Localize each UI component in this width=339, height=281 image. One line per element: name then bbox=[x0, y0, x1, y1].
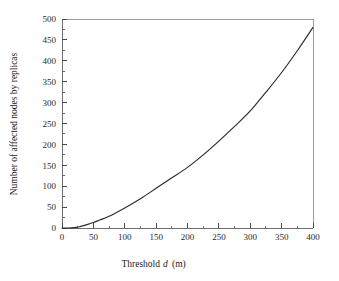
axis-ticks bbox=[62, 19, 313, 228]
x-axis-title: Threshold d (m) bbox=[121, 259, 185, 270]
x-tick-label-100: 100 bbox=[118, 232, 132, 242]
y-tick-label-350: 350 bbox=[43, 77, 57, 87]
chart-canvas: 0501001502002503003504000501001502002503… bbox=[0, 0, 339, 281]
y-tick-label-200: 200 bbox=[43, 140, 57, 150]
y-tick-label-500: 500 bbox=[43, 14, 57, 24]
x-tick-label-50: 50 bbox=[89, 232, 99, 242]
x-tick-label-200: 200 bbox=[181, 232, 195, 242]
x-axis-title-units: (m) bbox=[172, 259, 186, 270]
y-tick-label-50: 50 bbox=[47, 202, 57, 212]
x-tick-label-150: 150 bbox=[149, 232, 163, 242]
x-tick-label-400: 400 bbox=[306, 232, 320, 242]
x-axis-title-variable: d bbox=[163, 259, 168, 269]
y-tick-label-150: 150 bbox=[43, 161, 57, 171]
plot-frame bbox=[62, 19, 313, 228]
x-tick-label-0: 0 bbox=[60, 232, 65, 242]
y-tick-label-0: 0 bbox=[52, 223, 57, 233]
x-tick-label-250: 250 bbox=[212, 232, 226, 242]
data-curve-affected-nodes bbox=[62, 27, 313, 228]
chart-figure: 0501001502002503003504000501001502002503… bbox=[0, 0, 339, 281]
x-axis-title-prefix: Threshold bbox=[121, 259, 160, 269]
series-layer bbox=[62, 27, 313, 228]
y-tick-label-250: 250 bbox=[43, 119, 57, 129]
axis-tick-labels: 0501001502002503003504000501001502002503… bbox=[43, 14, 321, 242]
x-tick-label-300: 300 bbox=[244, 232, 258, 242]
y-tick-label-300: 300 bbox=[43, 98, 57, 108]
y-axis-title: Number of affected nodes by replicas bbox=[9, 52, 19, 195]
y-tick-label-400: 400 bbox=[43, 56, 57, 66]
x-tick-label-350: 350 bbox=[275, 232, 289, 242]
y-tick-label-100: 100 bbox=[43, 181, 57, 191]
y-tick-label-450: 450 bbox=[43, 35, 57, 45]
